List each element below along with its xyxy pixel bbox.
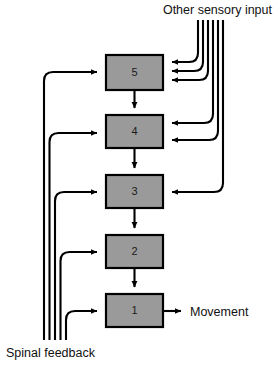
box-5[interactable]: 5 xyxy=(106,55,163,90)
box-4-label: 4 xyxy=(131,125,137,137)
box-2-label: 2 xyxy=(131,245,137,257)
box-1-label: 1 xyxy=(131,304,137,316)
other-sensory-input-bundle xyxy=(172,20,223,192)
feedback-wire-4 xyxy=(50,133,98,340)
feedback-wire-1 xyxy=(66,311,97,340)
box-3[interactable]: 3 xyxy=(106,175,163,208)
box-1[interactable]: 1 xyxy=(106,294,163,327)
diagram-canvas: 5 4 3 2 1 Other sensory input Spinal fee… xyxy=(0,0,274,366)
spinal-feedback-bundle xyxy=(44,72,97,340)
spinal-feedback-label: Spinal feedback xyxy=(6,346,96,360)
box-2[interactable]: 2 xyxy=(106,235,163,268)
box-3-label: 3 xyxy=(131,185,137,197)
sensory-wire-1 xyxy=(172,20,198,62)
box-5-label: 5 xyxy=(131,66,137,78)
motor-control-diagram: 5 4 3 2 1 Other sensory input Spinal fee… xyxy=(0,0,274,366)
feedback-wire-5 xyxy=(44,72,97,340)
movement-label: Movement xyxy=(190,305,249,319)
box-4[interactable]: 4 xyxy=(106,115,163,148)
other-sensory-input-label: Other sensory input xyxy=(163,3,273,17)
